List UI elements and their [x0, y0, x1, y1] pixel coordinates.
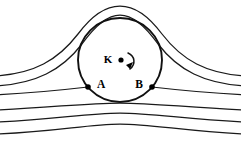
cylinder-center-dot-icon [118, 57, 123, 62]
streamline-outer-top [0, 6, 241, 76]
stagnation-point-b-dot-icon [149, 84, 155, 90]
stagnation-point-a-label: A [97, 78, 106, 90]
streamline-below-1 [0, 103, 241, 110]
streamline-dividing-left [0, 87, 88, 95]
stagnation-point-b-label: B [135, 78, 143, 90]
streamline-below-2 [0, 113, 241, 122]
streamline-dividing-right [152, 87, 241, 95]
streamline-inner-top [0, 15, 241, 86]
flow-diagram-canvas: K A B [0, 0, 241, 142]
stagnation-point-a-dot-icon [85, 84, 91, 90]
cylinder-center-label: K [104, 53, 113, 65]
streamline-below-3 [0, 124, 241, 134]
flow-diagram-figure: K A B [0, 0, 241, 142]
